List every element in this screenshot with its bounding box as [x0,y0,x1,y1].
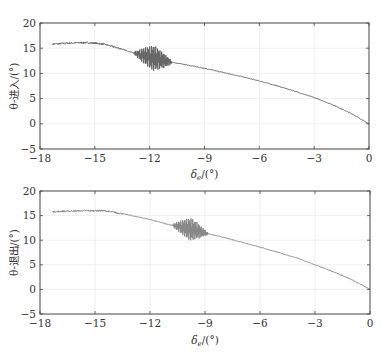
x-axis-label: δe/(°) [191,168,218,182]
y-tick-label: 15 [23,42,36,54]
figure: −18−15−12−9−6−30−505101520δe/(°)θ-进入/(°)… [0,0,382,358]
x-tick-label: −6 [252,152,268,164]
x-axis-label: δe/(°) [191,334,218,348]
x-tick-label: −12 [139,152,161,164]
x-tick-label: −3 [306,152,321,164]
x-tick-label: −12 [139,317,161,329]
x-tick-label: −9 [197,317,212,329]
x-tick-label: 0 [367,317,374,329]
top-plot: −18−15−12−9−6−30−505101520δe/(°)θ-进入/(°) [8,17,372,183]
y-axis-label: θ-退出/(°) [8,229,20,276]
data-line [53,42,369,124]
y-tick-label: −5 [21,143,36,155]
y-tick-label: 10 [23,67,36,79]
y-tick-label: 10 [23,234,36,246]
y-tick-label: 20 [23,185,36,197]
x-tick-label: −9 [197,152,212,164]
x-tick-label: −15 [84,152,106,164]
y-tick-label: −5 [21,308,36,320]
y-axis-label: θ-进入/(°) [8,63,20,110]
bottom-plot: −18−15−12−9−6−30−505101520δe/(°)θ-退出/(°) [8,185,373,349]
y-tick-label: 5 [29,258,36,270]
y-tick-label: 0 [29,283,36,295]
y-tick-label: 5 [29,92,36,104]
y-tick-label: 20 [23,17,36,29]
x-tick-label: 0 [366,152,373,164]
x-tick-label: −3 [307,317,322,329]
x-tick-label: −15 [84,317,106,329]
y-tick-label: 0 [29,117,36,129]
x-tick-label: −6 [252,317,268,329]
data-line [53,210,370,290]
y-tick-label: 15 [23,209,36,221]
